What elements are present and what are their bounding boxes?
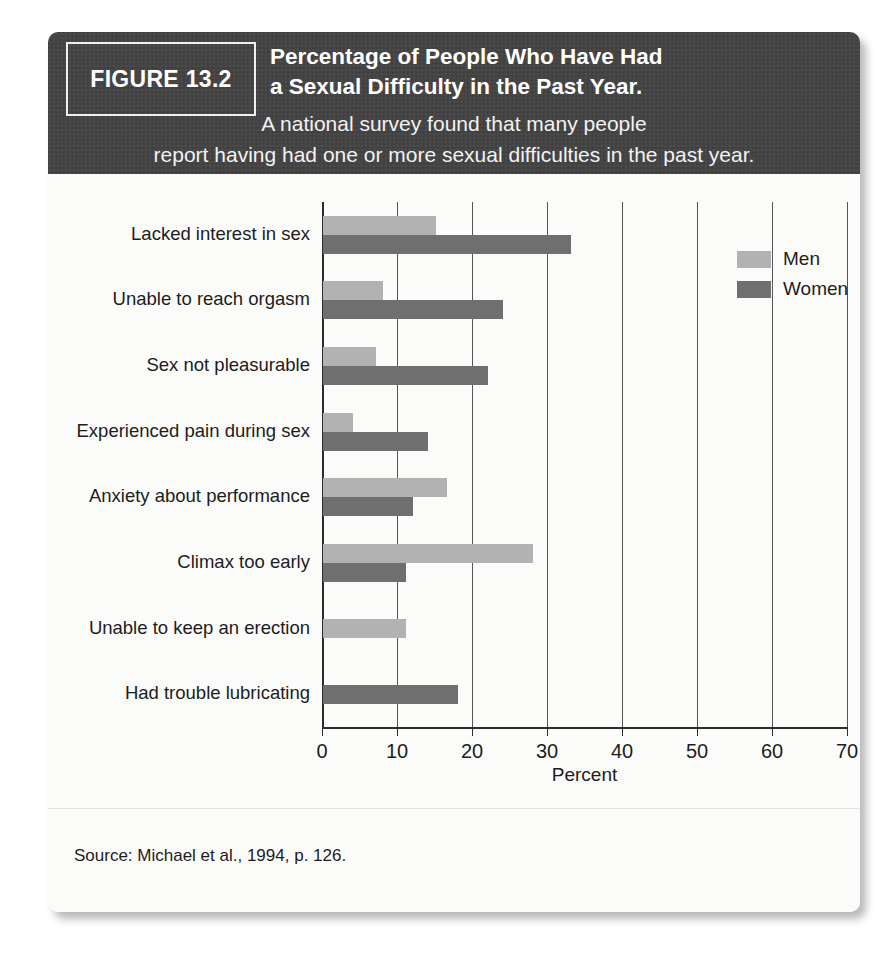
y-axis-category-label: Had trouble lubricating [48,682,322,704]
x-axis-tick-label: 40 [611,740,633,763]
y-axis-category-label: Sex not pleasurable [48,354,322,376]
chart-category-row: Climax too early [322,530,847,596]
y-axis-category-label: Unable to keep an erection [48,617,322,639]
bar-men [323,478,447,497]
figure-number-badge: FIGURE 13.2 [66,42,256,116]
bar-women [323,300,503,319]
figure-title-line-2: a Sexual Difficulty in the Past Year. [270,72,842,102]
bar-women [323,685,458,704]
y-axis-category-label: Anxiety about performance [48,485,322,507]
x-axis-tick-label: 30 [536,740,558,763]
x-axis-tick-label: 20 [461,740,483,763]
chart-category-row: Sex not pleasurable [322,333,847,399]
figure-title-line-1: Percentage of People Who Have Had [270,44,663,69]
bar-women [323,235,571,254]
bar-men [323,619,406,638]
bar-men [323,347,376,366]
x-axis-tick [622,727,623,736]
figure-number-label: FIGURE 13.2 [90,66,231,93]
footer-divider [48,808,860,809]
figure-header: FIGURE 13.2 Percentage of People Who Hav… [48,32,860,174]
y-axis-category-label: Experienced pain during sex [48,420,322,442]
bar-men [323,413,353,432]
bar-men [323,281,383,300]
legend-item-women: Women [737,274,860,304]
x-axis-tick-label: 10 [386,740,408,763]
figure-body: 010203040506070Lacked interest in sexUna… [48,174,860,912]
figure-subtitle-line-1: A national survey found that many people [54,108,854,139]
source-note: Source: Michael et al., 1994, p. 126. [74,846,346,866]
legend-label-men: Men [783,248,820,270]
bar-chart: 010203040506070Lacked interest in sexUna… [48,174,860,794]
figure-title: Percentage of People Who Have Had a Sexu… [270,42,842,102]
x-axis-tick [697,727,698,736]
x-axis-tick-label: 0 [316,740,327,763]
x-axis-tick-label: 70 [836,740,858,763]
bar-men [323,544,533,563]
x-axis-tick [472,727,473,736]
figure-subtitle: A national survey found that many people… [54,108,854,170]
bar-women [323,497,413,516]
x-axis-tick [322,727,323,736]
legend-swatch-women-icon [737,281,771,298]
y-axis-category-label: Lacked interest in sex [48,223,322,245]
y-axis-category-label: Climax too early [48,551,322,573]
figure-page: FIGURE 13.2 Percentage of People Who Hav… [0,0,886,970]
bar-women [323,366,488,385]
bar-women [323,432,428,451]
x-axis-title: Percent [322,764,847,786]
figure-card: FIGURE 13.2 Percentage of People Who Hav… [48,32,860,912]
chart-legend: Men Women [737,244,860,304]
chart-category-row: Unable to keep an erection [322,596,847,662]
x-axis-tick [847,727,848,736]
x-axis-tick [772,727,773,736]
y-axis-category-label: Unable to reach orgasm [48,288,322,310]
legend-item-men: Men [737,244,860,274]
figure-subtitle-line-2: report having had one or more sexual dif… [54,139,854,170]
bar-men [323,216,436,235]
bar-women [323,563,406,582]
chart-category-row: Had trouble lubricating [322,661,847,727]
legend-label-women: Women [783,278,848,300]
x-axis-tick [397,727,398,736]
x-axis-tick-label: 60 [761,740,783,763]
x-axis-tick-label: 50 [686,740,708,763]
chart-category-row: Experienced pain during sex [322,399,847,465]
chart-category-row: Anxiety about performance [322,465,847,531]
legend-swatch-men-icon [737,251,771,268]
x-axis-line [322,727,847,729]
x-axis-tick [547,727,548,736]
